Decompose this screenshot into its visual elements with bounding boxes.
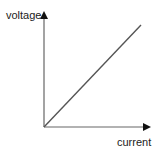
- y-axis-label: voltage: [6, 9, 41, 21]
- graph-diagram: [0, 0, 163, 157]
- x-axis-arrow-icon: [143, 123, 151, 131]
- x-axis-label: current: [117, 136, 151, 148]
- data-line: [44, 25, 141, 127]
